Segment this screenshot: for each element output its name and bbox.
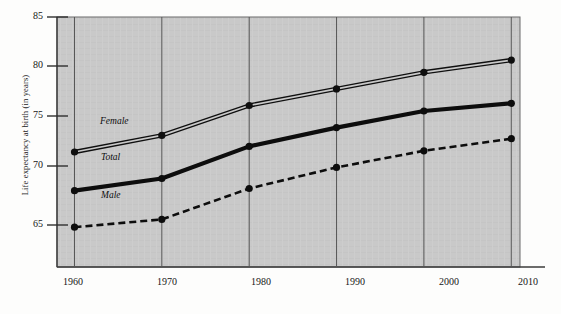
series-label-female: Female xyxy=(100,116,129,126)
series-label-total: Total xyxy=(101,152,120,162)
plot-area xyxy=(0,0,561,314)
data-point xyxy=(71,224,78,231)
y-axis-title: Life expectancy at birth (in years) xyxy=(20,25,30,245)
data-point xyxy=(158,132,165,139)
y-tick-label: 85 xyxy=(21,10,43,21)
data-point xyxy=(508,135,515,142)
data-point xyxy=(246,185,253,192)
data-point xyxy=(158,216,165,223)
x-tick-label: 1980 xyxy=(241,276,281,287)
x-tick-label: 1970 xyxy=(147,276,187,287)
data-point xyxy=(246,143,253,150)
data-point xyxy=(420,147,427,154)
y-tick-label: 65 xyxy=(21,218,43,229)
data-point xyxy=(333,164,340,171)
data-point xyxy=(333,85,340,92)
data-point xyxy=(246,102,253,109)
y-tick-label: 80 xyxy=(21,59,43,70)
data-point xyxy=(71,187,78,194)
data-point xyxy=(508,57,515,64)
data-point xyxy=(508,100,515,107)
x-tick-label: 2010 xyxy=(508,276,548,287)
data-point xyxy=(420,107,427,114)
x-tick-label: 1990 xyxy=(335,276,375,287)
y-tick-label: 75 xyxy=(21,109,43,120)
chart-figure: Life expectancy at birth (in years) 85 8… xyxy=(0,0,561,314)
data-point xyxy=(158,175,165,182)
data-point xyxy=(333,124,340,131)
y-tick-label: 70 xyxy=(21,159,43,170)
x-tick-label: 2000 xyxy=(429,276,469,287)
data-point xyxy=(420,69,427,76)
series-label-male: Male xyxy=(101,190,121,200)
x-tick-label: 1960 xyxy=(53,276,93,287)
data-point xyxy=(71,148,78,155)
